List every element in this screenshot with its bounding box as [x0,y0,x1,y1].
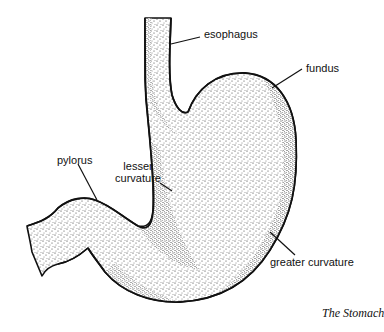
label-pylorus: pylorus [57,154,92,166]
label-lesser-curvature-line1: lesser [108,160,168,172]
label-lesser-curvature-line2: curvature [108,172,168,184]
fundus-leader [272,69,302,88]
label-esophagus: esophagus [204,28,258,40]
pylorus-leader [78,164,97,200]
label-lesser-curvature: lesser curvature [108,160,168,184]
figure-caption: The Stomach [322,306,384,321]
label-fundus: fundus [306,62,339,74]
esophagus-leader [171,37,200,44]
label-greater-curvature: greater curvature [270,256,354,268]
esophagus-right-line [170,18,188,113]
